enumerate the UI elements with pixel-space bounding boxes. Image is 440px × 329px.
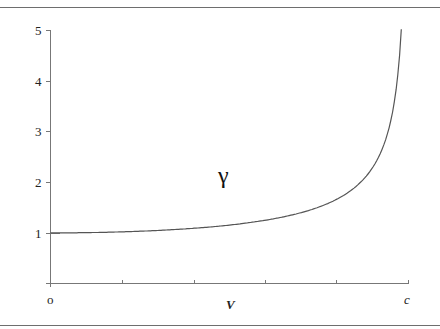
y-tick-5: 5: [35, 24, 42, 37]
x-tick-c: c: [404, 293, 410, 306]
x-axis-label: V: [226, 297, 235, 313]
y-tick-3: 3: [35, 125, 42, 138]
x-tick-origin: o: [47, 293, 54, 306]
y-tick-4: 4: [35, 75, 42, 88]
y-axis: [46, 30, 60, 287]
gamma-annotation: γ: [218, 163, 229, 187]
y-tick-1: 1: [35, 227, 42, 240]
gamma-curve: [51, 29, 402, 233]
x-axis: [46, 280, 409, 284]
y-tick-2: 2: [35, 176, 42, 189]
